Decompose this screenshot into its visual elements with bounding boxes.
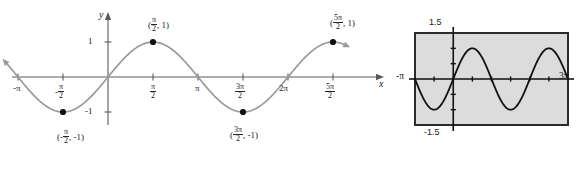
y-tick-label-1: 1 [88, 37, 93, 46]
fraction-numerator: 3π [233, 126, 243, 134]
fraction-pi-2: π2 [150, 83, 156, 100]
fraction-numerator: 3π [235, 83, 245, 91]
x-tick-label-2pi: 2π [279, 84, 288, 93]
fraction-denominator: 2 [325, 91, 335, 100]
label-close: , 1) [343, 18, 355, 28]
sine-function-figure: y x 1 -1 -π -π2 π2 π 3π2 2π 5π2 (-π2, -1… [0, 0, 587, 171]
x-tick-label-5pi-over-2: 5π2 [325, 83, 335, 100]
fraction-5pi-2: 5π2 [333, 14, 343, 31]
x-tick-label-3pi-over-2: 3π2 [235, 83, 245, 100]
calculator-ymax-label: 1.5 [429, 18, 442, 27]
fraction-5pi-2: 5π2 [325, 83, 335, 100]
fraction-denominator: 2 [235, 91, 245, 100]
x-axis-label: x [379, 79, 383, 89]
x-tick-label-pi: π [195, 84, 200, 93]
fraction-numerator: π [58, 83, 64, 91]
fraction-denominator: 2 [58, 91, 64, 100]
label-close: , -1) [69, 132, 84, 142]
fraction-denominator: 2 [150, 91, 156, 100]
fraction-numerator: 5π [325, 83, 335, 91]
calculator-ymin-label: -1.5 [424, 128, 440, 137]
fraction-numerator: 5π [333, 14, 343, 22]
calculator-xmax-label: 3π [559, 72, 569, 82]
fraction-3pi-2: 3π2 [233, 126, 243, 143]
fraction-3pi-2: 3π2 [235, 83, 245, 100]
label-close: , -1) [243, 130, 258, 140]
point-label-3pi-2: (3π2, -1) [230, 126, 258, 143]
y-axis-label: y [99, 10, 103, 20]
point-label-pi-2: (π2, 1) [148, 16, 169, 33]
y-tick-label-neg1: -1 [85, 107, 93, 116]
point-label-neg-pi-2: (-π2, -1) [57, 128, 84, 145]
fraction-pi-2: π2 [58, 83, 64, 100]
calculator-xmin-label: -π [396, 72, 404, 82]
point-label-5pi-2: (5π2, 1) [330, 14, 355, 31]
fraction-denominator: 2 [333, 22, 343, 31]
fraction-numerator: π [150, 83, 156, 91]
fraction-denominator: 2 [233, 134, 243, 143]
x-tick-label-pi-over-2: π2 [150, 83, 156, 100]
label-close: , 1) [157, 20, 169, 30]
x-tick-label-neg-pi-over-2: -π2 [55, 83, 64, 100]
x-tick-label-neg-pi: -π [13, 84, 21, 93]
